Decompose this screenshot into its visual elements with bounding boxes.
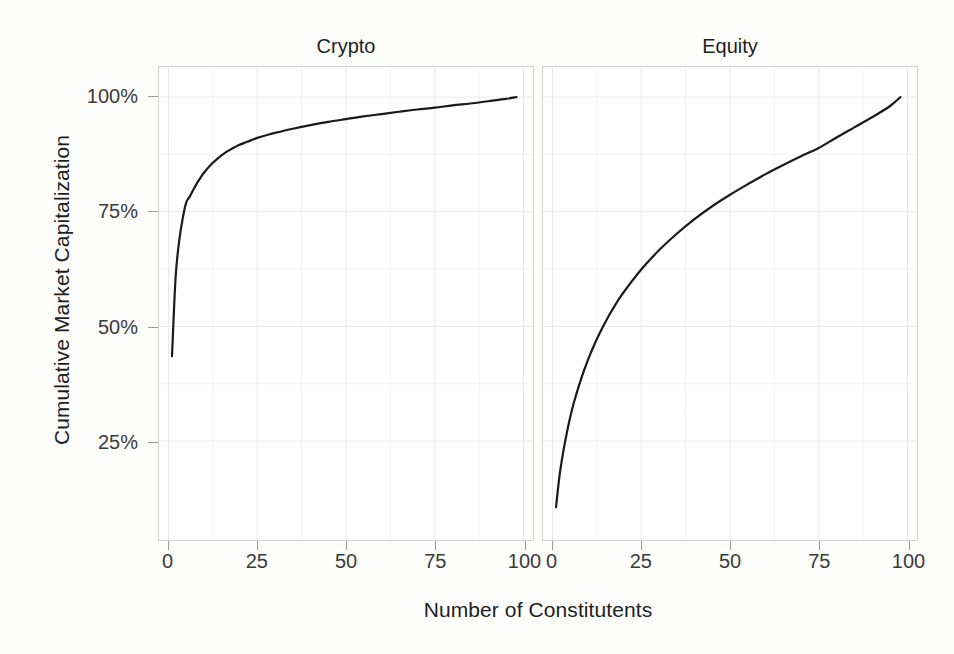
x-tick-label-equity-25: 25 [611,550,671,573]
x-tick-mark-crypto-25 [257,541,258,550]
y-tick-label-25: 25% [62,430,138,453]
y-tick-mark-50 [148,327,158,328]
y-tick-label-75: 75% [62,200,138,223]
x-tick-label-crypto-75: 75 [405,550,465,573]
panel-equity [542,66,918,541]
series-line-equity [556,97,900,507]
y-axis-tick-group: 100%75%50%25% [60,0,138,654]
grid-major-crypto [159,67,533,540]
x-tick-label-equity-0: 0 [522,550,582,573]
x-tick-mark-equity-100 [909,541,910,550]
x-tick-label-equity-50: 50 [700,550,760,573]
x-tick-label-equity-100: 100 [879,550,939,573]
y-tick-mark-75 [148,211,158,212]
x-axis-title: Number of Constitutents [158,598,918,622]
facet-strip-equity: Equity [542,30,918,62]
x-tick-mark-crypto-50 [346,541,347,550]
facet-strip-crypto: Crypto [158,30,534,62]
y-tick-label-100: 100% [62,85,138,108]
series-line-crypto [172,97,516,356]
y-tick-label-50: 50% [62,315,138,338]
x-tick-mark-crypto-100 [525,541,526,550]
grid-major-equity [543,67,917,540]
x-tick-label-crypto-50: 50 [316,550,376,573]
x-tick-mark-equity-0 [552,541,553,550]
x-tick-mark-equity-25 [641,541,642,550]
x-tick-label-equity-75: 75 [789,550,849,573]
x-tick-mark-equity-75 [819,541,820,550]
y-tick-mark-25 [148,442,158,443]
panel-crypto [158,66,534,541]
x-tick-mark-crypto-75 [435,541,436,550]
y-tick-mark-100 [148,96,158,97]
x-tick-mark-equity-50 [730,541,731,550]
chart-figure: Cumulative Market Capitalization 100%75%… [0,0,954,654]
x-tick-mark-crypto-0 [168,541,169,550]
plot-area-crypto [159,67,533,540]
plot-area-equity [543,67,917,540]
x-tick-label-crypto-0: 0 [138,550,198,573]
x-tick-label-crypto-25: 25 [227,550,287,573]
